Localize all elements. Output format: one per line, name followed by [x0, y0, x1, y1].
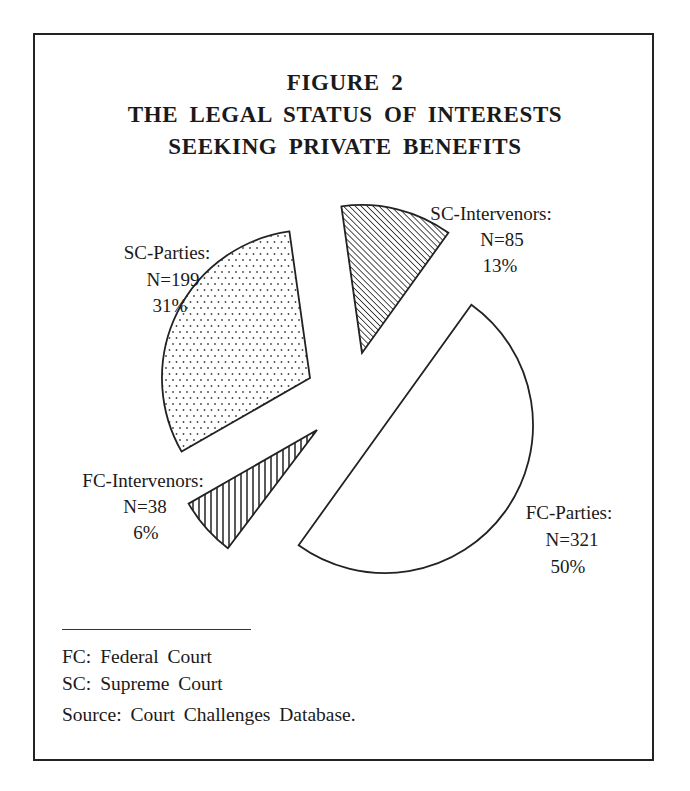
slice-sc-parties — [162, 231, 310, 451]
label-name: SC-Parties: — [124, 243, 211, 262]
slice-fc-parties — [299, 305, 533, 573]
label-count: N=85 — [480, 230, 523, 249]
footnote-fc: FC: Federal Court — [62, 647, 212, 667]
slice-sc-intervenors — [341, 205, 448, 353]
footnote-sc: SC: Supreme Court — [62, 674, 223, 694]
label-count: N=199 — [147, 270, 200, 289]
label-name: FC-Intervenors: — [82, 471, 203, 490]
label-percent: 13% — [483, 256, 518, 275]
label-count: N=321 — [546, 530, 599, 549]
label-percent: 6% — [133, 523, 158, 542]
footnote-source: Source: Court Challenges Database. — [62, 705, 356, 725]
label-count: N=38 — [123, 497, 166, 516]
label-percent: 31% — [153, 296, 188, 315]
label-percent: 50% — [551, 557, 586, 576]
label-name: FC-Parties: — [526, 503, 613, 522]
label-name: SC-Intervenors: — [430, 204, 551, 223]
slice-fc-intervenors — [189, 430, 317, 548]
footnote-rule — [62, 629, 251, 630]
